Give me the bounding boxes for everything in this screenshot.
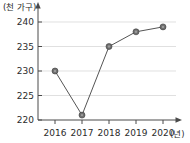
x-tickmarks-group bbox=[55, 120, 163, 124]
x-tick-label-2018: 2018 bbox=[98, 128, 121, 138]
y-tick-label-225: 225 bbox=[17, 91, 34, 101]
y-axis-unit-label: (천 가구) bbox=[3, 2, 36, 12]
data-point-2019[interactable] bbox=[133, 29, 139, 35]
x-tick-label-2019: 2019 bbox=[125, 128, 148, 138]
y-tick-label-240: 240 bbox=[17, 17, 34, 27]
gridlines-group bbox=[38, 22, 176, 96]
chart-canvas: (천 가구) 240 235 2 bbox=[0, 0, 190, 143]
data-point-2016[interactable] bbox=[52, 68, 58, 74]
x-tick-label-2016: 2016 bbox=[44, 128, 67, 138]
x-axis bbox=[38, 117, 182, 122]
x-tick-labels-group: 2016 2017 2018 2019 2020 bbox=[44, 128, 175, 138]
y-tick-label-235: 235 bbox=[17, 42, 34, 52]
y-tick-labels-group: 240 235 230 225 220 bbox=[17, 17, 34, 125]
line-chart-figure: (천 가구) 240 235 2 bbox=[0, 0, 190, 143]
y-axis bbox=[35, 2, 40, 120]
x-axis-unit-label: (년) bbox=[170, 129, 185, 139]
y-tickmarks-group bbox=[38, 22, 42, 120]
x-tick-label-2017: 2017 bbox=[71, 128, 94, 138]
y-tick-label-220: 220 bbox=[17, 115, 34, 125]
data-point-2020[interactable] bbox=[160, 24, 166, 30]
y-tick-label-230: 230 bbox=[17, 66, 34, 76]
data-point-2017[interactable] bbox=[79, 112, 85, 118]
x-axis-arrowhead bbox=[176, 117, 183, 122]
data-point-2018[interactable] bbox=[106, 44, 112, 50]
